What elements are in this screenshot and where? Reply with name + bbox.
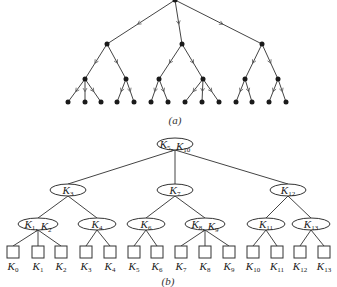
leaf-box bbox=[55, 246, 67, 258]
leaf-key-label: K2 bbox=[55, 260, 67, 274]
leaf-key-label: K6 bbox=[151, 260, 163, 274]
leaf-key-label: K7 bbox=[175, 260, 187, 274]
leaf-key-label: K0 bbox=[7, 260, 19, 274]
edge bbox=[126, 79, 134, 102]
leaf-box bbox=[199, 246, 211, 258]
edge bbox=[300, 230, 311, 246]
leaf-node bbox=[149, 100, 154, 105]
edge bbox=[159, 79, 168, 102]
leaf-box bbox=[271, 246, 283, 258]
tree-b-search-tree: K5, K10K3K7K12K1, K2K4K6K8, K9K11K13K0K1… bbox=[7, 138, 332, 274]
leaf-node bbox=[115, 100, 120, 105]
leaf-key-label: K5 bbox=[128, 260, 140, 274]
edge bbox=[38, 196, 68, 218]
leaf-box bbox=[247, 246, 259, 258]
leaf-node bbox=[200, 100, 205, 105]
internal-node bbox=[276, 77, 281, 82]
leaf-key-label: K1 bbox=[32, 260, 44, 274]
root-node bbox=[173, 0, 178, 3]
edge bbox=[146, 230, 157, 246]
caption-b: (b) bbox=[162, 275, 175, 287]
leaf-box bbox=[294, 246, 306, 258]
edge bbox=[175, 0, 182, 44]
edge bbox=[266, 196, 288, 218]
edge bbox=[236, 79, 245, 102]
leaf-box bbox=[80, 246, 92, 258]
leaf-node bbox=[166, 100, 171, 105]
leaf-node bbox=[217, 100, 222, 105]
edge bbox=[97, 230, 110, 246]
edge bbox=[175, 196, 205, 218]
leaf-box bbox=[175, 246, 187, 258]
edge bbox=[86, 230, 97, 246]
edge bbox=[85, 79, 101, 102]
leaf-node bbox=[183, 100, 188, 105]
edge bbox=[311, 230, 324, 246]
leaf-node bbox=[250, 100, 255, 105]
leaf-box bbox=[318, 246, 330, 258]
leaf-key-label: K4 bbox=[104, 260, 116, 274]
leaf-box bbox=[223, 246, 235, 258]
leaf-node bbox=[284, 100, 289, 105]
internal-node bbox=[124, 77, 129, 82]
edge bbox=[182, 44, 203, 79]
leaf-box bbox=[151, 246, 163, 258]
edge bbox=[146, 196, 175, 218]
edge bbox=[185, 79, 203, 102]
edge bbox=[175, 150, 288, 184]
edge bbox=[288, 196, 311, 218]
leaf-key-label: K10 bbox=[245, 260, 261, 274]
leaf-node bbox=[132, 100, 137, 105]
internal-node bbox=[83, 77, 88, 82]
edge bbox=[107, 44, 126, 79]
leaf-box bbox=[128, 246, 140, 258]
leaf-node bbox=[267, 100, 272, 105]
leaf-key-label: K3 bbox=[80, 260, 92, 274]
caption-a: (a) bbox=[169, 114, 182, 127]
edge bbox=[278, 79, 286, 102]
edge bbox=[85, 44, 107, 79]
leaf-key-label: K11 bbox=[269, 260, 285, 274]
edge bbox=[68, 79, 85, 102]
node-key-label: K8, K9 bbox=[190, 218, 219, 234]
internal-node bbox=[180, 42, 185, 47]
edge bbox=[269, 79, 278, 102]
leaf-box bbox=[32, 246, 44, 258]
leaf-key-label: K8 bbox=[199, 260, 211, 274]
edge bbox=[262, 44, 278, 79]
internal-node bbox=[201, 77, 206, 82]
leaf-node bbox=[99, 100, 104, 105]
edge bbox=[245, 44, 262, 79]
leaf-node bbox=[66, 100, 71, 105]
leaf-box bbox=[7, 246, 19, 258]
edge bbox=[266, 230, 277, 246]
leaf-node bbox=[234, 100, 239, 105]
leaf-key-label: K13 bbox=[316, 260, 332, 274]
tree-a bbox=[66, 0, 289, 105]
internal-node bbox=[260, 42, 265, 47]
edge bbox=[107, 0, 175, 44]
tree-diagram: (a) K5, K10K3K7K12K1, K2K4K6K8, K9K11K13… bbox=[0, 0, 337, 287]
leaf-box bbox=[104, 246, 116, 258]
edge bbox=[181, 230, 205, 246]
internal-node bbox=[157, 77, 162, 82]
leaf-key-label: K12 bbox=[292, 260, 308, 274]
edge bbox=[175, 0, 262, 44]
leaf-node bbox=[83, 100, 88, 105]
edge bbox=[68, 150, 175, 184]
node-key-label: K1, K2 bbox=[23, 218, 52, 234]
internal-node bbox=[105, 42, 110, 47]
edge bbox=[253, 230, 266, 246]
edge bbox=[245, 79, 252, 102]
edge bbox=[159, 44, 182, 79]
edge bbox=[13, 230, 38, 246]
edge bbox=[203, 79, 219, 102]
internal-node bbox=[243, 77, 248, 82]
edge bbox=[117, 79, 126, 102]
edge bbox=[134, 230, 146, 246]
leaf-key-label: K9 bbox=[223, 260, 235, 274]
edge bbox=[68, 196, 97, 218]
edge bbox=[151, 79, 159, 102]
